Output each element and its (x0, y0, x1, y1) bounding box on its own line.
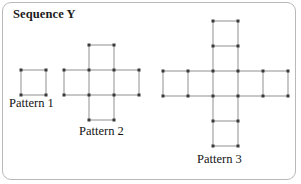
sequence-figure: Sequence Y Pattern 1 Pattern 2 Pattern 3 (0, 0, 301, 184)
figure-title: Sequence Y (13, 7, 76, 22)
pattern-label-2: Pattern 2 (79, 124, 124, 139)
pattern-label-1: Pattern 1 (9, 96, 54, 111)
figure-frame (2, 2, 296, 180)
pattern-label-3: Pattern 3 (197, 152, 242, 167)
